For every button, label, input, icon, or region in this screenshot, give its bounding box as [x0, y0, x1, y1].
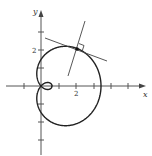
x-tick-label-2: 2: [74, 90, 78, 98]
tangency-point: [75, 47, 79, 51]
x-axis: 2 x: [6, 83, 148, 99]
x-axis-label: x: [143, 90, 148, 99]
y-tick-label-2: 2: [32, 47, 36, 55]
x-axis-arrow-icon: [139, 84, 146, 89]
diagram-canvas: 2 x 2 y: [0, 0, 152, 156]
y-axis-arrow-icon: [39, 10, 44, 17]
y-axis-label: y: [32, 7, 38, 16]
